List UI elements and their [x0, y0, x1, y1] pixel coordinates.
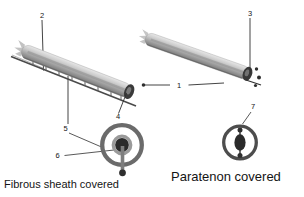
callout-3: 3 — [248, 9, 252, 18]
paratenon-dot — [254, 84, 257, 87]
callout-2: 2 — [40, 11, 44, 20]
paratenon-dot — [255, 67, 258, 70]
callout-5-leader-down — [69, 133, 102, 147]
left-tendon-cylinder — [12, 40, 137, 101]
callout-1: 1 — [177, 81, 181, 90]
vinculum-end-dot — [119, 169, 126, 176]
callout-4: 4 — [116, 112, 120, 121]
paratenon-strand — [246, 80, 261, 85]
tendon-coverings-figure: 1 2 3 4 5 6 7 Fibrous sheath covered Par… — [0, 0, 304, 197]
callout-7-leader — [243, 112, 252, 124]
callout-7: 7 — [251, 102, 255, 111]
caption-paratenon: Paratenon covered — [171, 169, 281, 184]
callout-1-leader-right — [189, 83, 225, 85]
tendon-diagram-canvas: 1 2 3 4 5 6 7 Fibrous sheath covered Par… — [0, 0, 304, 197]
mesotenon-top-dot — [238, 128, 243, 133]
callout-5: 5 — [63, 124, 67, 133]
right-tendon-shading-streak — [151, 38, 244, 73]
paratenon-dot — [257, 76, 261, 80]
mesotenon-bottom-dot — [238, 153, 243, 158]
cross-section-paratenon — [224, 126, 257, 159]
left-tendon-shading-streak — [27, 51, 125, 91]
right-tendon-cylinder — [137, 29, 255, 82]
callout-6: 6 — [55, 151, 59, 160]
caption-fibrous-sheath: Fibrous sheath covered — [4, 178, 119, 190]
tendon-spindle — [234, 134, 245, 151]
